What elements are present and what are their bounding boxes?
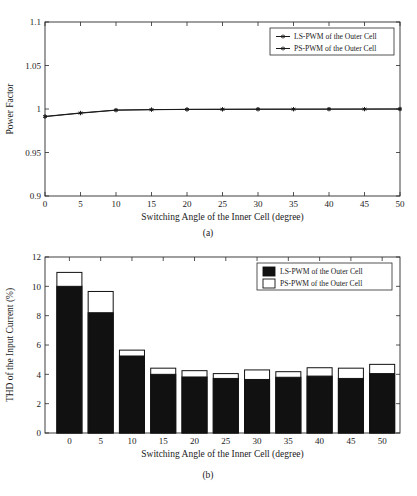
panel-a-caption: (a) bbox=[203, 228, 214, 239]
x-tick-label: 15 bbox=[159, 436, 169, 446]
y-tick-label: 0.9 bbox=[30, 191, 42, 201]
x-tick-label: 20 bbox=[183, 199, 193, 209]
bar-ls-pwm bbox=[276, 377, 301, 433]
x-tick-label: 50 bbox=[378, 436, 388, 446]
x-tick-label: 5 bbox=[78, 199, 83, 209]
x-tick-label: 15 bbox=[147, 199, 157, 209]
panel-a-line-chart: 051015202530354045500.90.9511.051.1Switc… bbox=[5, 17, 405, 223]
panel-b-legend-label-0: LS-PWM of the Outer Cell bbox=[280, 267, 363, 276]
figure-container: 051015202530354045500.90.9511.051.1Switc… bbox=[0, 0, 417, 496]
bar-ls-pwm bbox=[57, 286, 82, 433]
x-tick-label: 0 bbox=[67, 436, 72, 446]
bar-ls-pwm bbox=[88, 313, 113, 433]
bar-ls-pwm bbox=[370, 374, 395, 433]
bar-ls-pwm bbox=[307, 376, 332, 433]
x-tick-label: 40 bbox=[315, 436, 325, 446]
bar-ls-pwm bbox=[119, 356, 144, 433]
y-tick-label: 1 bbox=[37, 104, 42, 114]
panel-b-x-axis-label: Switching Angle of the Inner Cell (degre… bbox=[141, 449, 304, 460]
x-tick-label: 35 bbox=[284, 436, 294, 446]
y-tick-label: 10 bbox=[32, 282, 42, 292]
x-tick-label: 35 bbox=[289, 199, 299, 209]
x-tick-label: 20 bbox=[190, 436, 200, 446]
panel-a-legend-label-1: PS-PWM of the Outer Cell bbox=[294, 44, 376, 53]
x-tick-label: 25 bbox=[221, 436, 231, 446]
figure-svg: 051015202530354045500.90.9511.051.1Switc… bbox=[0, 0, 417, 496]
x-tick-label: 25 bbox=[218, 199, 228, 209]
legend-swatch-ps-pwm bbox=[263, 279, 275, 288]
panel-b-legend-label-1: PS-PWM of the Outer Cell bbox=[280, 279, 362, 288]
x-tick-label: 30 bbox=[254, 199, 264, 209]
x-tick-label: 45 bbox=[360, 199, 370, 209]
y-tick-label: 0 bbox=[37, 428, 42, 438]
bar-ls-pwm bbox=[338, 378, 363, 433]
panel-b-y-axis-label: THD of the Input Current (%) bbox=[5, 288, 16, 402]
y-tick-label: 0.95 bbox=[25, 148, 41, 158]
bar-ls-pwm bbox=[151, 374, 176, 433]
panel-a-legend-label-0: LS-PWM of the Outer Cell bbox=[294, 32, 377, 41]
y-tick-label: 1.1 bbox=[30, 17, 41, 27]
y-tick-label: 8 bbox=[37, 311, 42, 321]
panel-b-caption: (b) bbox=[202, 470, 213, 481]
bar-ls-pwm bbox=[182, 377, 207, 433]
bar-ls-pwm bbox=[245, 379, 270, 433]
y-tick-label: 1.05 bbox=[25, 61, 41, 71]
x-tick-label: 45 bbox=[346, 436, 356, 446]
x-tick-label: 0 bbox=[43, 199, 48, 209]
x-tick-label: 50 bbox=[396, 199, 406, 209]
legend-swatch-ls-pwm bbox=[263, 267, 275, 276]
y-tick-label: 2 bbox=[37, 399, 42, 409]
x-tick-label: 5 bbox=[98, 436, 103, 446]
x-tick-label: 10 bbox=[127, 436, 137, 446]
panel-b-bar-chart: 02468101205101520253035404550Switching A… bbox=[5, 252, 400, 460]
y-tick-label: 4 bbox=[37, 370, 42, 380]
x-tick-label: 30 bbox=[253, 436, 263, 446]
x-tick-label: 10 bbox=[112, 199, 122, 209]
y-tick-label: 6 bbox=[37, 340, 42, 350]
panel-a-x-axis-label: Switching Angle of the Inner Cell (degre… bbox=[141, 212, 304, 223]
panel-a-y-axis-label: Power Factor bbox=[5, 83, 15, 135]
y-tick-label: 12 bbox=[32, 252, 41, 262]
bar-ls-pwm bbox=[213, 378, 238, 433]
x-tick-label: 40 bbox=[325, 199, 335, 209]
